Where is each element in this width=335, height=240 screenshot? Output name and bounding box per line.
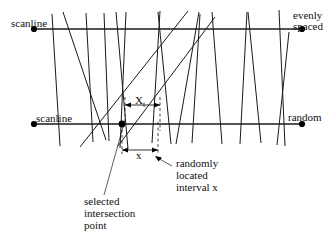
- selected-point-label-line1: selected: [84, 195, 120, 207]
- x-label: x: [136, 149, 142, 161]
- randomly-located-label-line3: interval x: [176, 181, 218, 193]
- scanline-top-label: scanline: [11, 17, 47, 29]
- fiber-line: [86, 13, 93, 142]
- xt-label: Xt: [135, 94, 146, 109]
- fiber-line: [277, 32, 289, 145]
- selected-intersection-point-dot: [119, 121, 126, 128]
- selected-point-label-line3: point: [84, 219, 107, 231]
- randomly-located-label-line2: located: [176, 169, 208, 181]
- randomly-located-leader-arrowhead: [155, 156, 162, 162]
- randomly-located-label-line1: randomly: [176, 157, 219, 169]
- fiber-line: [52, 14, 60, 146]
- xt-label-symbol: X: [135, 94, 143, 106]
- random-label: random: [288, 111, 322, 123]
- x-left-arrowhead: [122, 148, 128, 153]
- selected-point-label-line2: intersection: [84, 207, 136, 219]
- label-group: scanline scanline evenly spaced random X…: [11, 9, 323, 231]
- selected-point-leader-line: [104, 127, 123, 195]
- xt-left-arrowhead: [125, 103, 131, 108]
- scanline-diagram-figure: scanline scanline evenly spaced random X…: [0, 0, 335, 240]
- fiber-line: [116, 12, 128, 149]
- fiber-line-group: [52, 10, 289, 149]
- xt-label-subscript: t: [143, 100, 146, 109]
- scanline-bottom-label: scanline: [36, 112, 72, 124]
- fiber-line: [80, 11, 188, 147]
- fiber-line: [104, 13, 109, 141]
- evenly-spaced-label-line2: spaced: [293, 20, 323, 32]
- fiber-line: [152, 11, 160, 143]
- diagram-canvas: scanline scanline evenly spaced random X…: [0, 0, 335, 240]
- x-right-arrowhead: [152, 148, 158, 153]
- xt-right-arrowhead: [154, 103, 160, 108]
- annotation-group: [104, 97, 172, 195]
